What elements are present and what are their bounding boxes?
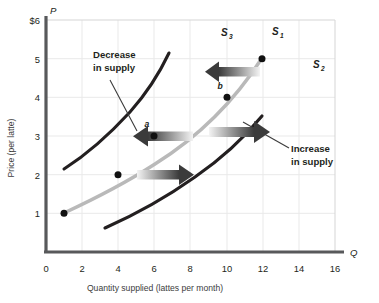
svg-text:3: 3 [229,33,233,40]
data-point-s1-2 [115,171,122,178]
decrease-line-2: in supply [93,62,136,73]
svg-text:S: S [272,26,279,37]
increase-line-2: in supply [291,156,334,167]
x-tick-14: 14 [294,263,304,274]
x-tick-6: 6 [151,263,156,274]
x-axis-title: Quantity supplied (lattes per month) [87,283,223,293]
svg-text:S: S [313,59,320,70]
y-tick-2: 2 [35,170,40,181]
point-label-a: a [145,119,150,129]
svg-text:2: 2 [320,65,325,72]
y-tick-3: 3 [35,131,40,142]
data-point-a [151,133,158,140]
x-tick-0: 0 [43,263,48,274]
data-point-s1-5 [259,55,266,62]
y-axis-title: Price (per latte) [6,118,16,177]
x-tick-8: 8 [187,263,192,274]
x-tick-16: 16 [330,263,340,274]
increase-line-1: Increase [291,143,330,154]
data-point-b [224,94,231,101]
x-tick-12: 12 [258,263,268,274]
y-axis-symbol: P [50,5,57,16]
x-tick-2: 2 [79,263,84,274]
supply-shift-figure: P Q $6 5 4 3 2 1 0 2 4 6 8 10 12 14 16 Q… [0,0,379,303]
svg-text:1: 1 [280,32,284,39]
y-tick-4: 4 [35,92,40,103]
x-axis-symbol: Q [350,247,358,258]
x-tick-4: 4 [115,263,120,274]
y-tick-6: $6 [30,15,40,26]
svg-text:S: S [221,27,228,38]
point-label-b: b [217,81,222,91]
supply-shift-chart: P Q $6 5 4 3 2 1 0 2 4 6 8 10 12 14 16 Q… [0,0,379,303]
y-tick-1: 1 [35,208,40,219]
data-point-s1-1 [61,210,68,217]
x-tick-10: 10 [222,263,232,274]
decrease-line-1: Decrease [93,49,136,60]
y-tick-5: 5 [35,54,40,65]
